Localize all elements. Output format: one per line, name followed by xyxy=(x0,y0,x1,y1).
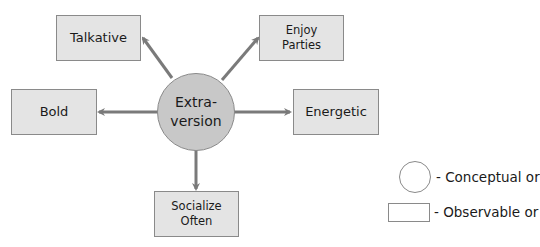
legend-latent-label: - Conceptual or “Latent” variable xyxy=(436,169,540,185)
legend-manifest-label: - Observable or “Manifest” variable xyxy=(434,204,540,220)
indicator-label-line1: Socialize xyxy=(171,199,221,214)
arrow-to-talkative xyxy=(143,38,172,78)
latent-label-line1: Extra- xyxy=(175,93,217,112)
indicator-energetic: Energetic xyxy=(293,89,379,135)
arrow-to-enjoy-parties xyxy=(222,38,258,80)
indicator-label-line2: Often xyxy=(181,214,213,229)
legend-rect-icon xyxy=(388,203,430,222)
indicator-label: Talkative xyxy=(70,30,127,46)
latent-variable-extraversion: Extra- version xyxy=(157,73,235,151)
indicator-talkative: Talkative xyxy=(56,15,141,61)
indicator-label: Bold xyxy=(40,104,69,120)
indicator-enjoy-parties: Enjoy Parties xyxy=(259,15,344,61)
indicator-label-line1: Enjoy xyxy=(286,23,318,38)
indicator-label-line2: Parties xyxy=(282,38,321,53)
indicator-socialize-often: Socialize Often xyxy=(154,191,239,237)
indicator-label: Energetic xyxy=(305,104,367,120)
latent-label-line2: version xyxy=(170,112,221,131)
legend-circle-icon xyxy=(399,161,431,193)
indicator-bold: Bold xyxy=(11,89,97,135)
